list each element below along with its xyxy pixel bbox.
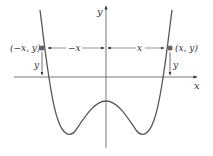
left-height-label: y [33,60,40,70]
x-axis-label: x [194,80,200,91]
right-point [167,45,172,50]
left-point-label: (−x, y) [10,43,41,53]
right-point-label: (x, y) [175,43,198,53]
right-height-label: y [172,60,179,70]
y-axis-label: y [96,6,103,17]
even-function-diagram: x y −x x y y (−x, y) (x, y) [0,0,213,156]
left-distance-label: −x [68,43,81,53]
right-distance-label: x [137,43,142,53]
